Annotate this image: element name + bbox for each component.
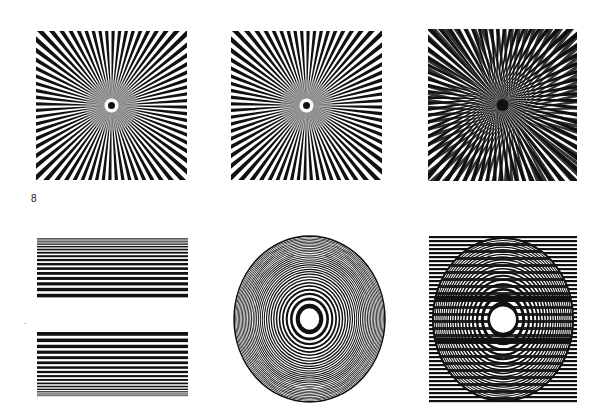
figure-number-label: 8 (31, 193, 37, 204)
moire-star-overlay (428, 29, 577, 181)
scan-speck: - (24, 318, 27, 327)
line-grating-top (37, 238, 188, 300)
siemens-star-middle (231, 31, 382, 180)
siemens-star-left (36, 31, 187, 180)
zone-plate (233, 235, 386, 403)
zone-plate-with-gratings (429, 236, 577, 403)
line-grating-bottom (37, 332, 188, 397)
